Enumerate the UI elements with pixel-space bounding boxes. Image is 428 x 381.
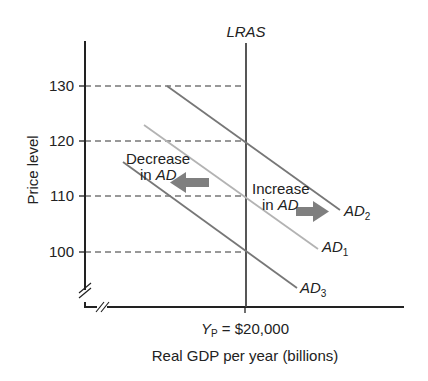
y-tick-120: 120 <box>49 132 74 149</box>
lras-label: LRAS <box>226 23 265 40</box>
ad1-label: AD1 <box>321 238 349 258</box>
ad3-label: AD3 <box>299 279 327 299</box>
ad-lras-chart: 130 120 110 100 Price level Real GDP per… <box>0 0 428 381</box>
decrease-label-line2: in AD <box>140 166 177 183</box>
x-axis-title: Real GDP per year (billions) <box>152 347 338 364</box>
yp-label: YP = $20,000 <box>201 320 289 339</box>
decrease-label-line1: Decrease <box>126 150 190 167</box>
ad2-label: AD2 <box>343 202 371 222</box>
increase-label-line1: Increase <box>252 180 310 197</box>
y-tick-100: 100 <box>49 243 74 260</box>
y-tick-130: 130 <box>49 77 74 94</box>
y-tick-110: 110 <box>50 187 74 204</box>
y-axis-title: Price level <box>24 135 41 204</box>
increase-arrow-icon <box>296 201 329 222</box>
increase-label-line2: in AD <box>262 196 299 213</box>
